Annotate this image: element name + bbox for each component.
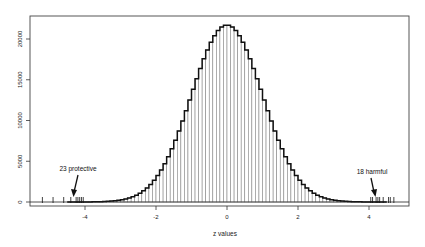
histogram-chart: -4-2024 05000100001500020000 z values 23… <box>0 0 425 247</box>
histogram-bar <box>188 100 192 202</box>
x-tick-label: 2 <box>296 214 300 220</box>
histogram-bar <box>192 89 196 202</box>
histogram-bar <box>252 69 256 202</box>
y-tick-label: 5000 <box>17 154 23 168</box>
annotation-harmful: 18 harmful <box>357 168 388 175</box>
histogram-bar <box>238 36 242 202</box>
x-tick-label: -2 <box>153 214 159 220</box>
histogram-bar <box>231 27 235 202</box>
histogram-bar <box>177 131 181 202</box>
x-axis: -4-2024 <box>82 206 371 220</box>
histogram-bar <box>213 36 217 202</box>
histogram-bar <box>248 59 252 202</box>
x-tick-label: 4 <box>367 214 371 220</box>
arrow-protective-icon <box>71 175 78 197</box>
histogram-bar <box>181 121 185 202</box>
histogram-bars <box>67 25 387 202</box>
histogram-bar <box>202 59 206 202</box>
histogram-bar <box>227 25 231 202</box>
y-tick-label: 15000 <box>17 71 23 88</box>
histogram-bar <box>245 50 249 202</box>
arrow-harmful-icon <box>371 178 377 197</box>
histogram-bar <box>234 31 238 202</box>
histogram-bar <box>209 42 213 202</box>
histogram-bar <box>184 111 188 202</box>
histogram-bar <box>266 111 270 202</box>
histogram-bar <box>223 25 227 202</box>
histogram-bar <box>263 100 267 202</box>
histogram-bar <box>273 131 277 202</box>
x-tick-label: 0 <box>225 214 229 220</box>
x-axis-label: z values <box>213 230 238 237</box>
histogram-bar <box>195 79 199 202</box>
y-tick-label: 0 <box>17 200 23 204</box>
annotation-protective: 23 protective <box>59 165 97 173</box>
histogram-bar <box>241 42 245 202</box>
histogram-bar <box>255 79 259 202</box>
histogram-bar <box>259 89 263 202</box>
histogram-bar <box>199 69 203 202</box>
histogram-bar <box>206 50 210 202</box>
y-axis: 05000100001500020000 <box>17 30 30 204</box>
x-tick-label: -4 <box>82 214 88 220</box>
histogram-bar <box>216 31 220 202</box>
histogram-bar <box>270 121 274 202</box>
y-tick-label: 20000 <box>17 30 23 47</box>
histogram-bar <box>220 27 224 202</box>
y-tick-label: 10000 <box>17 111 23 128</box>
